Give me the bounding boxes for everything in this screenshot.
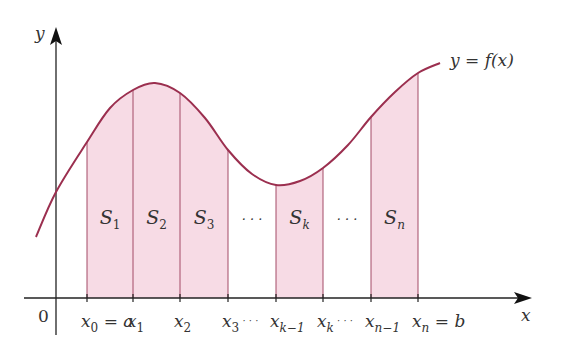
tick-label-xk: xk · · · (317, 311, 353, 335)
tick-label-x2: x2 (174, 311, 191, 335)
origin-label: 0 (38, 306, 49, 326)
strip-label-6: · · · (337, 212, 358, 227)
riemann-strips-diagram: y x 0 y = f(x) x0 = ax1x2x3 · · ·xk−1xk … (0, 0, 564, 360)
tick-label-xnm1: xn−1 (365, 311, 400, 335)
x-axis-label: x (521, 305, 531, 325)
tick-labels: x0 = ax1x2x3 · · ·xk−1xk · · ·xn−1xn = b (81, 311, 465, 335)
strip-label-4: · · · (242, 212, 263, 227)
tick-label-x0: x0 = a (81, 311, 133, 335)
strip-fill-3 (180, 40, 228, 298)
strip-fill-2 (133, 40, 180, 298)
tick-label-xn: xn = b (412, 311, 465, 335)
tick-label-xkm1: xk−1 (270, 311, 305, 335)
curve-label: y = f(x) (449, 50, 514, 70)
strip-fills (87, 40, 418, 298)
tick-label-x3: x3 · · · (222, 311, 258, 335)
y-axis-label: y (34, 23, 45, 43)
strip-fill-1 (87, 40, 133, 298)
strip-fill-5 (276, 40, 323, 298)
tick-label-x1: x1 (127, 311, 144, 335)
